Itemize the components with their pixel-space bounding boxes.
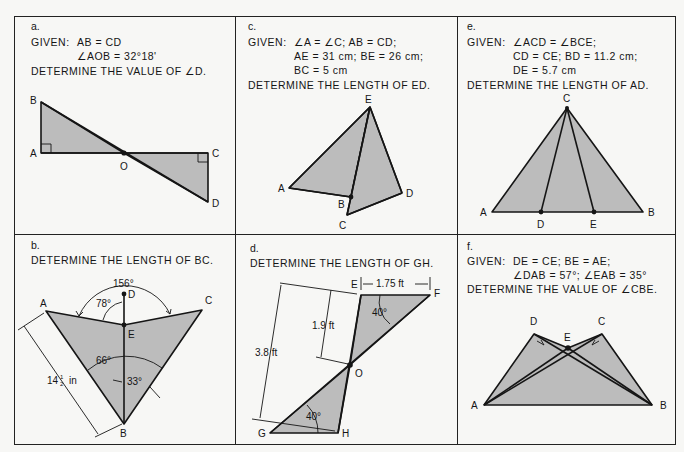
point-label-d: D bbox=[530, 316, 537, 327]
problem-f: f. GIVEN: DE = CE; BE = AE; ∠DAB = 57°; … bbox=[0, 0, 684, 452]
point-label-b: B bbox=[660, 400, 667, 411]
point-label-a: A bbox=[471, 400, 478, 411]
figure-f: D C E A B bbox=[0, 0, 684, 452]
point-label-c: C bbox=[598, 316, 605, 327]
point-label-e: E bbox=[564, 332, 571, 343]
